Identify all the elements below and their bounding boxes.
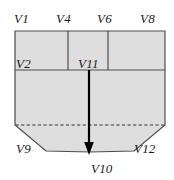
vertex-label-v9: V9 (16, 142, 31, 155)
vertex-label-v1: V1 (14, 12, 29, 25)
vertex-label-v2: V2 (16, 57, 31, 70)
diagram-figure: V1 V4 V6 V8 V2 V11 V9 V12 V10 (0, 0, 174, 180)
vertex-label-v11: V11 (78, 57, 99, 70)
vertex-label-v4: V4 (56, 12, 71, 25)
vertex-label-v10: V10 (91, 162, 113, 175)
vertex-label-v12: V12 (134, 142, 156, 155)
vertex-label-v6: V6 (97, 12, 112, 25)
vertex-label-v8: V8 (140, 12, 155, 25)
